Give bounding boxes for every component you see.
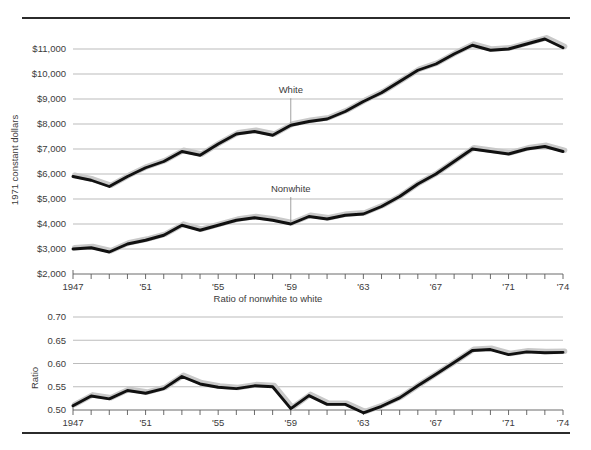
x-tick-label: '59 <box>285 417 297 428</box>
x-tick-label: '51 <box>139 417 151 428</box>
income-y-tick-labels: $2,000$3,000$4,000$5,000$6,000$7,000$8,0… <box>32 43 66 279</box>
income-series-lines <box>73 38 565 252</box>
y-tick-label: $11,000 <box>32 43 66 54</box>
y-tick-label: 0.65 <box>48 335 67 346</box>
ratio-chart: Ratio of nonwhite to white 0.500.550.600… <box>29 293 569 428</box>
top-rule <box>22 17 570 19</box>
income-x-tick-labels: 1947'51'55'59'63'67'71'74 <box>62 281 569 292</box>
x-tick-label: '71 <box>502 417 514 428</box>
ratio-y-axis-title: Ratio <box>29 367 40 389</box>
income-x-tickmarks <box>73 274 563 279</box>
income-annotations: WhiteNonwhite <box>271 84 311 222</box>
x-tick-label: '74 <box>557 417 569 428</box>
y-tick-label: $4,000 <box>37 218 66 229</box>
x-tick-label: '55 <box>212 281 224 292</box>
series-annotation-white: White <box>279 84 303 95</box>
y-tick-label: 0.60 <box>48 358 67 369</box>
x-tick-label: '63 <box>357 417 369 428</box>
ratio-y-tick-labels: 0.500.550.600.650.70 <box>48 311 67 415</box>
y-tick-label: 0.50 <box>48 404 67 415</box>
y-tick-label: 0.70 <box>48 311 67 322</box>
x-tick-label: 1947 <box>62 281 83 292</box>
x-tick-label: '74 <box>557 281 569 292</box>
series-annotation-nonwhite: Nonwhite <box>271 183 311 194</box>
y-tick-label: $9,000 <box>37 93 66 104</box>
series-shadow <box>75 38 565 186</box>
x-tick-label: '63 <box>357 281 369 292</box>
income-chart: $2,000$3,000$4,000$5,000$6,000$7,000$8,0… <box>9 38 569 292</box>
x-tick-label: '67 <box>430 281 442 292</box>
x-tick-label: '51 <box>139 281 151 292</box>
y-tick-label: $7,000 <box>37 143 66 154</box>
series-shadow <box>75 145 565 251</box>
series-line-ratio-of-nonwhite-to-white <box>73 350 563 413</box>
y-tick-label: $3,000 <box>37 243 66 254</box>
figure-container: $2,000$3,000$4,000$5,000$6,000$7,000$8,0… <box>0 0 591 450</box>
ratio-chart-title: Ratio of nonwhite to white <box>214 293 323 304</box>
y-tick-label: $10,000 <box>32 68 66 79</box>
income-y-axis-title: 1971 constant dollars <box>9 115 20 206</box>
y-tick-label: $8,000 <box>37 118 66 129</box>
y-tick-label: $2,000 <box>37 268 66 279</box>
x-tick-label: '71 <box>502 281 514 292</box>
ratio-x-tickmarks <box>73 410 563 415</box>
x-tick-label: 1947 <box>62 417 83 428</box>
chart-canvas: $2,000$3,000$4,000$5,000$6,000$7,000$8,0… <box>0 0 591 450</box>
ratio-series-lines <box>73 348 565 412</box>
y-tick-label: $5,000 <box>37 193 66 204</box>
ratio-x-tick-labels: 1947'51'55'59'63'67'71'74 <box>62 417 569 428</box>
y-tick-label: $6,000 <box>37 168 66 179</box>
y-tick-label: 0.55 <box>48 381 67 392</box>
x-tick-label: '59 <box>285 281 297 292</box>
x-tick-label: '55 <box>212 417 224 428</box>
x-tick-label: '67 <box>430 417 442 428</box>
bottom-rule <box>22 432 570 434</box>
